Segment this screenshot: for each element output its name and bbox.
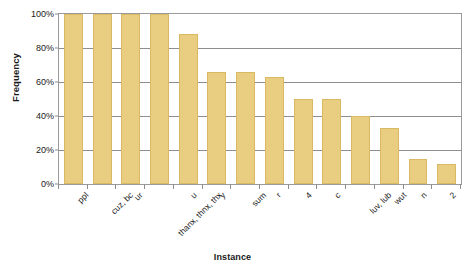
x-tick-mark <box>374 184 375 189</box>
x-category-label: thanx, thnx, thx <box>175 190 223 238</box>
y-tick-label: 80% <box>36 43 54 53</box>
y-tick-label: 100% <box>31 9 54 19</box>
bar-cell <box>174 14 203 184</box>
x-category-label: ur <box>132 190 144 202</box>
x-tick-mark <box>431 184 432 189</box>
x-tick-mark <box>259 184 260 189</box>
bar-cell <box>203 14 232 184</box>
x-tick-mark <box>87 184 88 189</box>
x-tick-mark <box>316 184 317 189</box>
bar-cell <box>231 14 260 184</box>
bar <box>294 99 313 184</box>
bar <box>322 99 341 184</box>
y-tick-label: 40% <box>36 111 54 121</box>
x-category-label: r <box>274 190 283 199</box>
bar-chart: Frequency 100%80%60%40%20%0% pplcuz, bcu… <box>0 0 465 272</box>
bar-cell <box>346 14 375 184</box>
x-category-label: 4 <box>303 190 313 200</box>
bar <box>150 14 169 184</box>
x-tick-mark <box>345 184 346 189</box>
bar-cell <box>404 14 433 184</box>
bar-series <box>59 14 461 184</box>
bar-cell <box>260 14 289 184</box>
x-category-label: luv, lub <box>367 190 393 216</box>
bar-cell <box>59 14 88 184</box>
bar-cell <box>289 14 318 184</box>
x-tick-mark <box>115 184 116 189</box>
bar-cell <box>88 14 117 184</box>
x-category-label: n <box>418 190 428 200</box>
x-tick-mark <box>460 184 461 189</box>
x-tick-mark <box>230 184 231 189</box>
x-tick-mark <box>144 184 145 189</box>
x-tick-mark <box>403 184 404 189</box>
x-axis-ticks <box>58 184 460 189</box>
plot-area: 100%80%60%40%20%0% <box>58 13 462 185</box>
x-category-label: cuz, bc <box>109 190 135 216</box>
x-category-label: u <box>189 190 199 200</box>
y-tick-label: 0% <box>41 179 54 189</box>
bar <box>409 159 428 185</box>
bar <box>121 14 140 184</box>
bar <box>207 72 226 184</box>
y-axis-title: Frequency <box>10 28 21 128</box>
bar <box>236 72 255 184</box>
y-tick-label: 20% <box>36 145 54 155</box>
x-category-label: ppl <box>76 190 91 205</box>
x-tick-mark <box>58 184 59 189</box>
x-tick-mark <box>173 184 174 189</box>
bar-cell <box>432 14 461 184</box>
x-tick-mark <box>202 184 203 189</box>
x-category-label: sum <box>249 190 267 208</box>
x-axis-title: Instance <box>0 252 465 262</box>
x-category-label: 2 <box>447 190 457 200</box>
bar <box>93 14 112 184</box>
bar <box>351 116 370 184</box>
y-tick-label: 60% <box>36 77 54 87</box>
bar-cell <box>145 14 174 184</box>
bar <box>265 77 284 184</box>
bar <box>380 128 399 184</box>
bar-cell <box>317 14 346 184</box>
bar-cell <box>375 14 404 184</box>
x-tick-mark <box>288 184 289 189</box>
bar-cell <box>116 14 145 184</box>
bar <box>64 14 83 184</box>
x-axis-category-labels: pplcuz, bcurthanx, thnx, thxuysumr4cluv,… <box>58 190 460 248</box>
x-category-label: c <box>332 190 342 200</box>
bar <box>179 34 198 184</box>
x-category-label: wut <box>392 190 408 206</box>
bar <box>437 164 456 184</box>
